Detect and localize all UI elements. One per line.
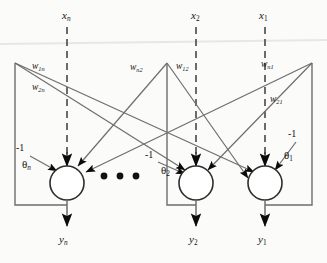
weight-label-w2n: w2n [32,83,45,93]
neural-network-diagram: xn x2 x1 w1n w2n wn2 w12 wn1 w21 -1 -1 -… [0,0,327,263]
input-label-x1: x1 [259,10,268,23]
weight-line-w12 [167,63,248,178]
bias-label-1: -1 [288,129,296,139]
weight-label-wn1: wn1 [261,60,274,70]
output-stems [67,200,265,226]
weight-connections [15,63,312,178]
scan-artifact-line [0,40,327,44]
input-label-x2: x2 [191,10,200,23]
output-label-y2: y2 [189,234,198,247]
bias-label-2: -1 [145,150,153,160]
output-label-yn: yn [59,234,68,247]
ellipsis-dot [101,173,108,180]
weight-line-w2n [15,63,254,172]
neuron-2 [179,166,213,200]
weight-line-w1n [15,63,185,170]
neuron-1 [248,166,282,200]
threshold-label-theta-1: θ1 [284,150,293,163]
neuron-n [50,166,84,200]
weight-label-w21: w21 [270,95,283,105]
weight-line-w21 [208,63,312,170]
weight-label-w12: w12 [176,62,189,72]
threshold-label-theta-2: θ2 [161,165,170,178]
ellipsis-dot [133,173,140,180]
neuron-ellipsis [101,173,140,180]
bias-label-n: -1 [16,143,24,153]
weight-label-w1n: w1n [32,62,45,72]
input-label-xn: xn [62,10,71,23]
output-label-y1: y1 [258,234,267,247]
diagram-canvas [0,0,327,263]
threshold-label-theta-n: θn [22,159,31,172]
weight-label-wn2: wn2 [130,63,143,73]
bias-line-n [30,156,57,171]
ellipsis-dot [117,173,124,180]
